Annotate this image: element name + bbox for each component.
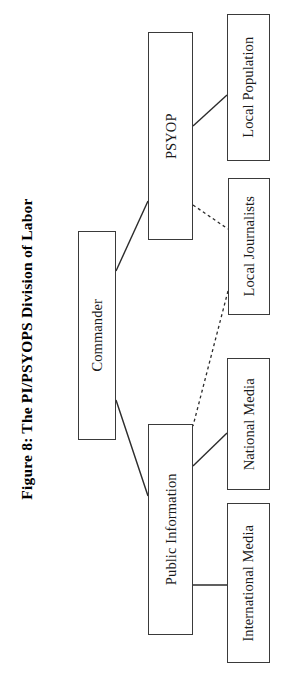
node-public-information-label: Public Information	[163, 474, 178, 586]
node-public-information[interactable]: Public Information	[148, 424, 193, 635]
node-commander[interactable]: Commander	[78, 231, 116, 440]
connector-commander-to-public-information	[116, 400, 148, 496]
node-psyop-label: PSYOP	[163, 113, 178, 159]
connector-psyop-to-local-journalists	[193, 205, 228, 229]
node-local-journalists-label: Local Journalists	[242, 196, 257, 296]
connector-local-journalists-to-public-information	[193, 291, 228, 426]
figure-title-text: Figure 8: The PI/PSYOPS Division of Labo…	[18, 198, 36, 499]
node-international-media-label: International Media	[241, 525, 256, 642]
node-local-population[interactable]: Local Population	[227, 14, 270, 161]
node-national-media[interactable]: National Media	[227, 358, 270, 490]
connector-public-information-to-national-media	[193, 433, 227, 466]
figure-title: Figure 8: The PI/PSYOPS Division of Labo…	[0, 0, 54, 697]
node-psyop[interactable]: PSYOP	[148, 32, 193, 240]
node-commander-label: Commander	[90, 299, 105, 372]
node-national-media-label: National Media	[241, 378, 256, 470]
node-local-journalists[interactable]: Local Journalists	[228, 178, 270, 315]
figure-canvas: Figure 8: The PI/PSYOPS Division of Labo…	[0, 0, 286, 697]
node-international-media[interactable]: International Media	[227, 503, 270, 663]
connector-psyop-to-local-population	[193, 95, 227, 126]
connector-commander-to-psyop	[116, 201, 148, 271]
node-local-population-label: Local Population	[241, 37, 256, 138]
